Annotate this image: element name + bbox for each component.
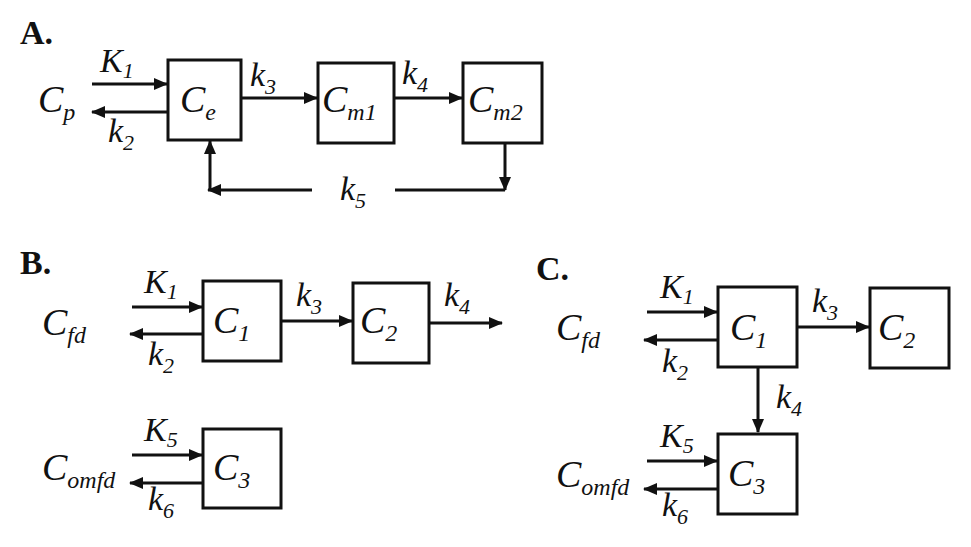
- k1-rate-label: K1: [659, 268, 694, 309]
- panel-c: C. Cfd C1 C2 K1 k2 k3 k4 Comfd C3 K5 k6: [536, 250, 949, 529]
- k2-rate-label: k2: [662, 342, 688, 385]
- k4-rate-label: k4: [776, 378, 802, 421]
- panel-c-label: C.: [536, 250, 569, 287]
- k2-rate-label: k2: [108, 112, 134, 155]
- k5-rate-label: k5: [340, 170, 366, 213]
- comfd-label: Comfd: [556, 453, 630, 500]
- cfd-label: Cfd: [556, 306, 601, 353]
- k3-rate-label: k3: [296, 276, 322, 319]
- k4-rate-label: k4: [444, 276, 470, 319]
- cfd-label: Cfd: [42, 301, 87, 348]
- k5-rate-label: K5: [659, 417, 694, 458]
- panel-a-label: A.: [20, 14, 53, 51]
- panel-b: B. Cfd C1 C2 K1 k2 k3 k4 Comfd C3 K5 k6: [20, 244, 502, 523]
- plasma-concentration-label: Cp: [38, 78, 75, 125]
- panel-b-label: B.: [20, 244, 51, 281]
- comfd-label: Comfd: [42, 446, 116, 493]
- k5-rate-label: K5: [143, 411, 178, 452]
- k1-rate-label: K1: [99, 42, 134, 83]
- k1-rate-label: K1: [143, 263, 178, 304]
- compartment-model-diagram: A. Cp Ce Cm1 Cm2 K1 k2 k3 k4 k5 B. Cfd: [0, 0, 971, 547]
- k3-rate-label: k3: [250, 56, 276, 99]
- k6-rate-label: k6: [662, 486, 688, 529]
- k2-rate-label: k2: [148, 335, 174, 378]
- k4-rate-label: k4: [402, 54, 428, 97]
- panel-a: A. Cp Ce Cm1 Cm2 K1 k2 k3 k4 k5: [20, 14, 542, 213]
- k6-rate-label: k6: [148, 480, 174, 523]
- k3-rate-label: k3: [812, 282, 838, 325]
